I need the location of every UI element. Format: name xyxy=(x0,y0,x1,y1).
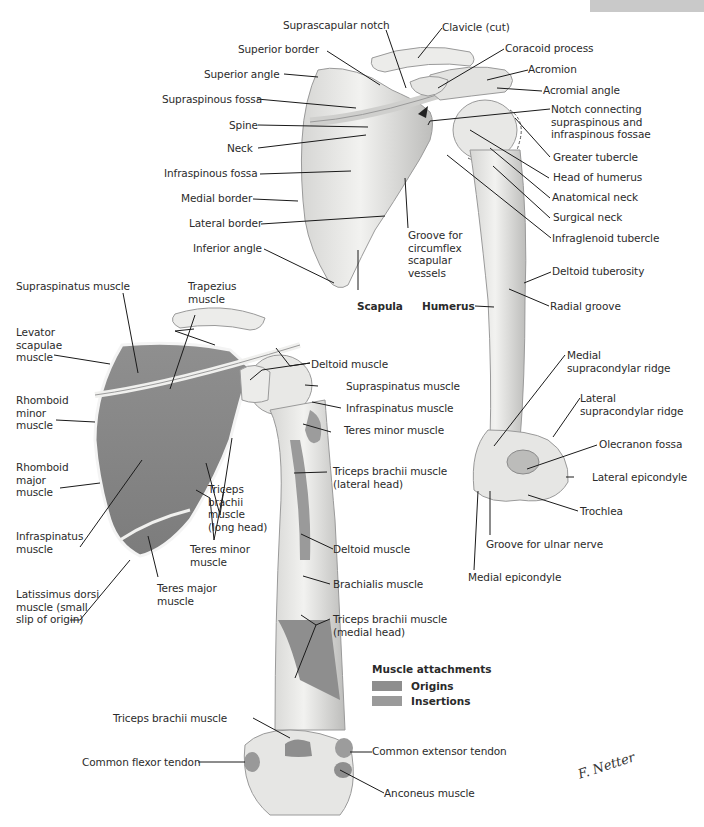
label-triceps-lateral-head: Triceps brachii muscle (lateral head) xyxy=(333,465,447,490)
label-deltoid-muscle-top: Deltoid muscle xyxy=(311,358,388,371)
label-triceps-medial-head: Triceps brachii muscle (medial head) xyxy=(333,613,447,638)
label-olecranon-fossa: Olecranon fossa xyxy=(599,438,682,451)
label-lateral-border: Lateral border xyxy=(189,217,262,230)
label-head-of-humerus: Head of humerus xyxy=(553,171,642,184)
label-scapula: Scapula xyxy=(357,300,403,313)
label-notch-connecting: Notch connecting supraspinous and infras… xyxy=(551,103,651,141)
muscle-attachments-legend: Muscle attachments Origins Insertions xyxy=(372,663,492,708)
legend-label-insertions: Insertions xyxy=(411,695,471,707)
label-supraspinous-fossa: Supraspinous fossa xyxy=(162,93,262,106)
label-coracoid-process: Coracoid process xyxy=(505,42,593,55)
label-neck: Neck xyxy=(227,142,253,155)
label-acromial-angle: Acromial angle xyxy=(543,84,620,97)
label-common-flexor-tendon: Common flexor tendon xyxy=(82,756,200,769)
label-humerus: Humerus xyxy=(422,300,475,313)
label-trapezius-muscle: Trapezius muscle xyxy=(188,280,236,305)
label-clavicle-cut: Clavicle (cut) xyxy=(442,21,510,34)
label-teres-minor-left: Teres minor muscle xyxy=(190,543,250,568)
label-spine: Spine xyxy=(229,119,258,132)
label-medial-supracondylar-ridge: Medial supracondylar ridge xyxy=(567,349,670,374)
legend-title: Muscle attachments xyxy=(372,663,492,675)
label-infraglenoid-tubercle: Infraglenoid tubercle xyxy=(552,232,659,245)
label-common-extensor-tendon: Common extensor tendon xyxy=(372,745,507,758)
label-lateral-supracondylar-ridge: Lateral supracondylar ridge xyxy=(580,392,683,417)
label-triceps-brachii-muscle: Triceps brachii muscle xyxy=(113,712,227,725)
label-deltoid-muscle-mid: Deltoid muscle xyxy=(333,543,410,556)
label-trochlea: Trochlea xyxy=(580,505,623,518)
label-infraspinatus-muscle-right: Infraspinatus muscle xyxy=(346,402,453,415)
label-anconeus-muscle: Anconeus muscle xyxy=(384,787,475,800)
label-teres-major: Teres major muscle xyxy=(157,582,217,607)
label-anatomical-neck: Anatomical neck xyxy=(552,191,638,204)
label-supraspinatus-muscle-left: Supraspinatus muscle xyxy=(16,280,130,293)
label-groove-circumflex: Groove for circumflex scapular vessels xyxy=(408,229,463,279)
label-acromion: Acromion xyxy=(528,63,577,76)
label-suprascapular-notch: Suprascapular notch xyxy=(283,19,389,32)
label-brachialis-muscle: Brachialis muscle xyxy=(333,578,423,591)
humerus-muscle-map xyxy=(244,400,353,815)
label-greater-tubercle: Greater tubercle xyxy=(553,151,638,164)
label-groove-ulnar-nerve: Groove for ulnar nerve xyxy=(486,538,603,551)
label-triceps-long-head: Triceps brachii muscle (long head) xyxy=(208,483,267,533)
label-superior-border: Superior border xyxy=(238,43,319,56)
label-supraspinatus-muscle-right: Supraspinatus muscle xyxy=(346,380,460,393)
label-levator-scapulae: Levator scapulae muscle xyxy=(16,326,62,364)
label-radial-groove: Radial groove xyxy=(550,300,621,313)
label-medial-epicondyle: Medial epicondyle xyxy=(468,571,561,584)
label-inferior-angle: Inferior angle xyxy=(193,242,262,255)
label-surgical-neck: Surgical neck xyxy=(553,211,622,224)
legend-item-origins: Origins xyxy=(372,678,492,693)
label-infraspinatus-muscle-left: Infraspinatus muscle xyxy=(16,530,83,555)
label-teres-minor-right: Teres minor muscle xyxy=(344,424,444,437)
label-rhomboid-minor: Rhomboid minor muscle xyxy=(16,394,68,432)
label-latissimus-dorsi: Latissimus dorsi muscle (small slip of o… xyxy=(16,588,99,626)
label-superior-angle: Superior angle xyxy=(204,68,280,81)
label-lateral-epicondyle: Lateral epicondyle xyxy=(592,471,687,484)
legend-item-insertions: Insertions xyxy=(372,693,492,708)
insertions-swatch xyxy=(372,696,402,706)
label-medial-border: Medial border xyxy=(181,192,252,205)
label-infraspinous-fossa: Infraspinous fossa xyxy=(164,167,258,180)
label-rhomboid-major: Rhomboid major muscle xyxy=(16,461,68,499)
legend-label-origins: Origins xyxy=(411,680,454,692)
label-deltoid-tuberosity: Deltoid tuberosity xyxy=(552,265,644,278)
origins-swatch xyxy=(372,681,402,691)
